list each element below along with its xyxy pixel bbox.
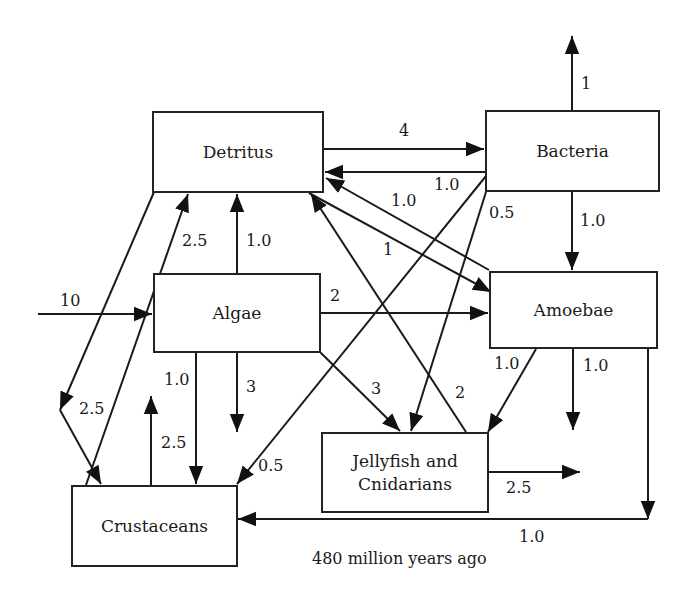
flow-label: 1 bbox=[383, 240, 393, 259]
node-bacteria: Bacteria bbox=[485, 110, 660, 192]
flow-label: 4 bbox=[399, 121, 409, 140]
flow-label: 1.0 bbox=[494, 354, 519, 373]
node-crustaceans: Crustaceans bbox=[71, 485, 238, 567]
node-algae: Algae bbox=[153, 273, 321, 353]
flow-label: 2.5 bbox=[506, 478, 531, 497]
arrow-algae-jellyfish bbox=[320, 352, 400, 431]
flow-label: 2.5 bbox=[161, 433, 186, 452]
arrow-bacteria-jellyfish bbox=[411, 192, 486, 431]
flow-label: 1.0 bbox=[434, 175, 459, 194]
arrow-detritus-crustaceans bbox=[60, 410, 101, 484]
node-label: Algae bbox=[213, 302, 262, 325]
node-amoebae: Amoebae bbox=[489, 271, 658, 349]
flow-label: 3 bbox=[246, 377, 256, 396]
node-label: Jellyfish and Cnidarians bbox=[351, 450, 459, 496]
node-jellyfish-cnidarians: Jellyfish and Cnidarians bbox=[321, 432, 489, 513]
flow-label: 1.0 bbox=[519, 527, 544, 546]
flow-label: 1 bbox=[581, 74, 591, 93]
node-label: Amoebae bbox=[534, 299, 614, 322]
flow-label: 2.5 bbox=[79, 399, 104, 418]
flow-label: 10 bbox=[60, 291, 80, 310]
node-label: Bacteria bbox=[536, 140, 609, 163]
flow-label: 2 bbox=[330, 286, 340, 305]
node-label: Crustaceans bbox=[101, 515, 208, 538]
flow-label: 2 bbox=[455, 383, 465, 402]
flow-label: 1.0 bbox=[580, 211, 605, 230]
flow-label: 0.5 bbox=[489, 203, 514, 222]
flow-label: 3 bbox=[371, 379, 381, 398]
food-web-diagram: Detritus Bacteria Algae Amoebae Crustace… bbox=[0, 0, 693, 600]
flow-label: 0.5 bbox=[258, 456, 283, 475]
node-label: Detritus bbox=[203, 141, 274, 164]
flow-label: 1.0 bbox=[583, 356, 608, 375]
flow-label: 1.0 bbox=[391, 191, 416, 210]
flow-label: 1.0 bbox=[164, 370, 189, 389]
flow-label: 2.5 bbox=[182, 231, 207, 250]
diagram-caption: 480 million years ago bbox=[312, 549, 487, 568]
flow-label: 1.0 bbox=[246, 231, 271, 250]
node-detritus: Detritus bbox=[152, 111, 324, 193]
